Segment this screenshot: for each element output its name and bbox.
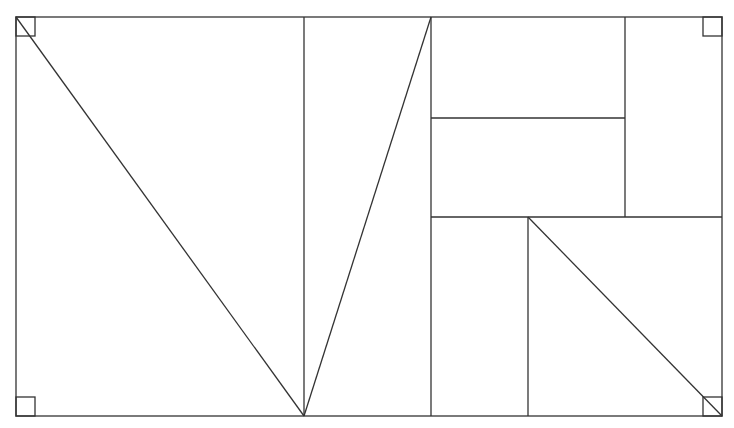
right-angle-marker-top-right	[703, 17, 722, 36]
right-diagonal	[528, 217, 722, 416]
geometry-diagram	[0, 0, 734, 428]
left-diagonal	[16, 17, 304, 416]
middle-diagonal	[304, 17, 431, 416]
right-angle-marker-bottom-left	[16, 397, 35, 416]
